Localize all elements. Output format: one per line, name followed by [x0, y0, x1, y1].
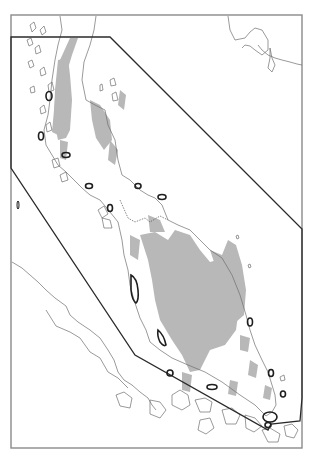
site-marker — [46, 92, 52, 101]
site-marker — [86, 184, 93, 189]
site-marker — [248, 318, 253, 326]
site-marker — [158, 330, 166, 346]
map-canvas — [0, 0, 315, 465]
site-marker — [281, 391, 286, 397]
site-marker — [158, 195, 166, 200]
highland-areas — [52, 38, 272, 400]
site-marker — [269, 370, 274, 377]
site-marker — [108, 205, 113, 212]
site-marker — [17, 201, 19, 209]
site-marker — [131, 275, 138, 303]
site-marker — [39, 132, 44, 140]
site-marker — [207, 385, 217, 390]
